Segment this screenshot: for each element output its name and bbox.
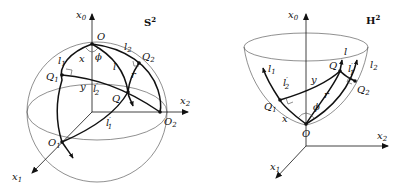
label-line-l1-prime: l′1 (106, 116, 112, 131)
label-axis-x2: x2 (377, 130, 388, 143)
label-point-Q2: Q2 (142, 51, 155, 64)
label-point-Q2: Q2 (357, 84, 370, 97)
right-angle-q1 (66, 69, 72, 75)
label-point-O: O (97, 31, 105, 42)
point-Q1 (278, 98, 282, 102)
point-Q (338, 69, 342, 73)
geodesic-l1 (57, 44, 92, 142)
label-point-Q: Q (112, 93, 120, 104)
label-axis-x0: x0 (76, 9, 87, 22)
label-line-l1: l1 (268, 63, 276, 76)
label-angle-phi: ϕ (313, 101, 320, 112)
label-line-l: l (344, 46, 347, 57)
label-point-Q1: Q1 (264, 101, 277, 114)
geodesic-l2 (92, 44, 161, 112)
label-line-l2: l2 (124, 41, 132, 54)
hyperboloid-diagram: H2 x0 x1 x2 O Q Q1 Q2 l1 l2 l l′1 l′2 x … (244, 9, 388, 178)
label-length-y: y (310, 74, 317, 85)
label-line-l2: l2 (370, 59, 378, 72)
point-O (90, 42, 94, 46)
right-angle-q1 (286, 98, 293, 104)
point-Q2 (353, 79, 357, 83)
label-line-l1: l1 (58, 55, 66, 68)
geodesic-l1-arrow (62, 142, 73, 158)
label-length-x: x (282, 113, 288, 124)
label-length-y: y (79, 81, 86, 92)
point-O1 (60, 140, 64, 144)
point-Q2 (137, 61, 141, 65)
label-point-O1: O1 (48, 137, 61, 150)
point-Q1 (60, 73, 64, 77)
label-point-Q1: Q1 (46, 71, 59, 84)
label-line-l1-prime: l′1 (348, 62, 354, 77)
label-line-l: l (113, 61, 116, 72)
point-O (304, 122, 308, 126)
label-point-O2: O2 (164, 116, 177, 129)
label-length-x: x (79, 53, 85, 64)
label-axis-x1: x1 (270, 161, 280, 174)
sphere-diagram: S2 x0 x1 x2 O O1 O2 Q Q1 Q2 l1 l2 l l′1 … (12, 9, 191, 184)
label-axis-x0: x0 (288, 9, 299, 22)
point-O2 (158, 110, 162, 114)
axis-x1 (276, 146, 306, 178)
figure-canvas: S2 x0 x1 x2 O O1 O2 Q Q1 Q2 l1 l2 l l′1 … (0, 0, 404, 190)
label-axis-x2: x2 (180, 95, 191, 108)
geodesic-l2-prime (62, 75, 160, 112)
label-point-Q: Q (329, 60, 337, 71)
label-axis-x1: x1 (12, 171, 22, 184)
label-length-r: r (131, 69, 137, 80)
label-line-l2-prime: l′2 (283, 76, 290, 91)
sphere-title: S2 (144, 15, 156, 28)
label-angle-phi: ϕ (95, 51, 102, 62)
label-point-O: O (302, 128, 310, 139)
point-Q (126, 90, 130, 94)
hyperboloid-title: H2 (366, 13, 380, 26)
